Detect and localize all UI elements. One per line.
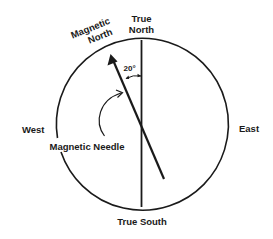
true-north-label-line1: True — [131, 13, 151, 24]
east-label: East — [239, 123, 260, 134]
declination-arc-arrow-left — [126, 76, 130, 80]
declination-label: 20° — [124, 64, 136, 73]
true-south-label: True South — [117, 216, 167, 227]
compass-diagram: 20° True North Magnetic North West East … — [0, 0, 273, 239]
west-label: West — [22, 124, 45, 135]
magnetic-needle-arrowhead — [108, 54, 118, 66]
needle-pointer-curve — [99, 93, 121, 136]
magnetic-needle — [113, 60, 164, 179]
true-north-label-line2: North — [129, 24, 155, 35]
magnetic-needle-label: Magnetic Needle — [50, 141, 125, 152]
